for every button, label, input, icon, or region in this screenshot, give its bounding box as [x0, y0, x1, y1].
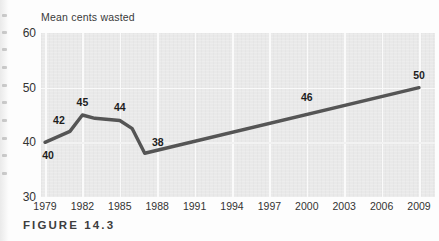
point-label-40: 40: [42, 149, 54, 161]
x-tick-1988: 1988: [146, 200, 169, 212]
point-label-50: 50: [413, 69, 425, 81]
x-tick-1994: 1994: [220, 200, 243, 212]
x-tick-1979: 1979: [33, 200, 56, 212]
point-label-42: 42: [53, 114, 65, 126]
point-label-44: 44: [114, 101, 126, 113]
x-tick-1997: 1997: [258, 200, 281, 212]
y-tick-50: 50: [23, 81, 36, 95]
x-tick-1985: 1985: [108, 200, 131, 212]
point-label-38: 38: [152, 136, 164, 148]
line-series: [41, 33, 435, 197]
y-axis-title: Mean cents wasted: [41, 11, 135, 23]
x-tick-2006: 2006: [370, 200, 393, 212]
y-tick-40: 40: [23, 135, 36, 149]
figure-container: Mean cents wasted 30405060 1979198219851…: [0, 0, 439, 241]
figure-caption: FIGURE 14.3: [23, 219, 115, 231]
x-tick-2003: 2003: [333, 200, 356, 212]
y-tick-60: 60: [23, 26, 36, 40]
x-tick-1982: 1982: [71, 200, 94, 212]
point-label-45: 45: [77, 96, 89, 108]
x-tick-2000: 2000: [295, 200, 318, 212]
point-label-46: 46: [301, 91, 313, 103]
x-tick-2009: 2009: [407, 200, 430, 212]
x-tick-1991: 1991: [183, 200, 206, 212]
y-axis-tick-labels: 30405060: [0, 0, 36, 241]
